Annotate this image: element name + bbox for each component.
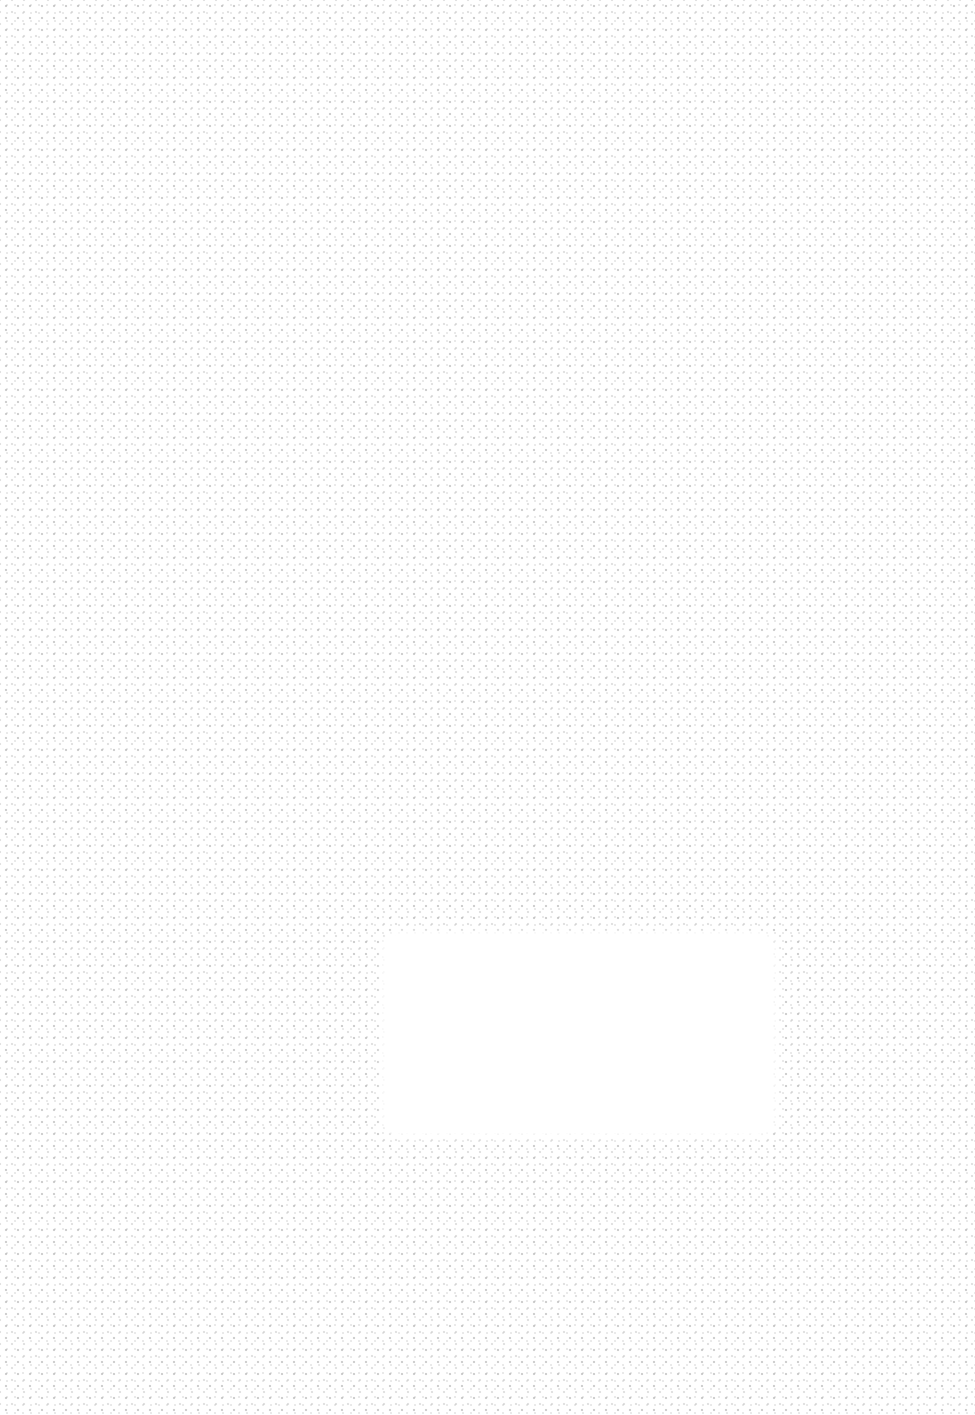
panel-text: [385, 935, 773, 1133]
dotted-pattern-background: [0, 0, 975, 1415]
blank-panel: [385, 935, 773, 1133]
